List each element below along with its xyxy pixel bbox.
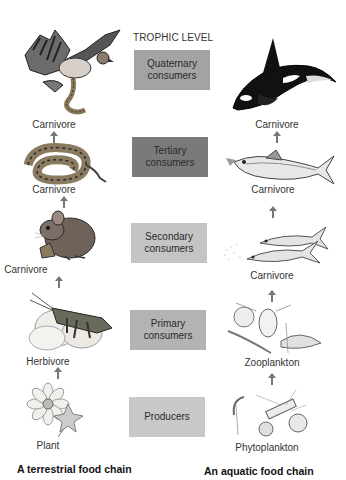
arrow-up-icon (53, 367, 63, 379)
grasshopper-icon (22, 288, 117, 358)
level-label: Tertiary (146, 145, 195, 157)
aquatic-label-producer: Phytoplankton (217, 442, 317, 453)
mouse-icon (30, 208, 100, 263)
terrestrial-label-quaternary: Carnivore (4, 119, 104, 130)
zooplankton-icon (226, 303, 326, 358)
terrestrial-label-producer: Plant (0, 440, 98, 451)
arrow-up-icon (267, 290, 277, 302)
terrestrial-chain-title: A terrestrial food chain (17, 463, 132, 475)
phytoplankton-icon (226, 385, 326, 440)
trophic-level-title: TROPHIC LEVEL (133, 32, 223, 43)
arrow-up-icon (268, 206, 278, 218)
level-label: consumers (144, 330, 193, 342)
level-box-producers: Producers (129, 397, 205, 437)
aquatic-label-quaternary: Carnivore (227, 119, 327, 130)
level-box-tertiary: Tertiary consumers (132, 137, 208, 177)
aquatic-label-primary: Zooplankton (222, 357, 322, 368)
terrestrial-label-tertiary: Carnivore (4, 184, 104, 195)
level-box-primary: Primary consumers (130, 310, 206, 350)
orca-icon (228, 38, 338, 113)
aquatic-label-tertiary: Carnivore (223, 184, 323, 195)
level-label: consumers (145, 243, 194, 255)
level-label: Primary (144, 318, 193, 330)
level-label: Secondary (145, 231, 194, 243)
level-label: consumers (146, 157, 195, 169)
level-label: Quaternary (147, 58, 197, 70)
terrestrial-label-secondary: Carnivore (0, 264, 76, 275)
arrow-up-icon (59, 196, 69, 208)
snake-icon (18, 140, 108, 190)
level-label: consumers (147, 70, 197, 82)
arrow-up-icon (54, 276, 64, 288)
aquatic-label-secondary: Carnivore (222, 270, 322, 281)
arrow-up-icon (272, 131, 282, 143)
hawk-icon (15, 10, 120, 115)
small-fish-icon (222, 225, 332, 270)
level-label: Producers (144, 411, 190, 423)
aquatic-chain-title: An aquatic food chain (204, 465, 314, 477)
arrow-up-icon (267, 373, 277, 385)
level-box-quaternary: Quaternary consumers (134, 50, 210, 90)
level-box-secondary: Secondary consumers (131, 223, 207, 263)
flower-icon (28, 382, 88, 437)
terrestrial-label-primary: Herbivore (0, 356, 98, 367)
